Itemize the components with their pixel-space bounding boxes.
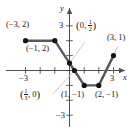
point-label-0-half: (0, 12) bbox=[76, 19, 96, 33]
point-label-neg1-2: (−1, 2) bbox=[26, 44, 49, 53]
y-tick-label-neg3: −3 bbox=[56, 111, 65, 120]
leader-line-half bbox=[70, 42, 86, 63]
fraction-one-third: 13 bbox=[24, 88, 28, 102]
y-tick-label-3: 3 bbox=[59, 21, 63, 30]
x-axis-label: x bbox=[123, 73, 127, 82]
point-label-3-1: (3, 1) bbox=[107, 33, 125, 42]
point-label-neg3-2: (−3, 2) bbox=[6, 20, 29, 29]
point-1-neg1 bbox=[82, 83, 87, 88]
y-axis-label: y bbox=[60, 4, 64, 13]
point-third-0 bbox=[72, 68, 77, 73]
fraction-denominator: 3 bbox=[24, 94, 28, 102]
paren-open: ( bbox=[76, 19, 80, 31]
point-0-half bbox=[67, 61, 72, 66]
point-label-2-neg1: (2, −1) bbox=[95, 90, 118, 99]
x-tick-label-3: 3 bbox=[110, 74, 114, 83]
point-label-1-neg1: (1, −1) bbox=[61, 90, 84, 99]
paren-close: ) bbox=[36, 88, 40, 100]
point-2-neg1 bbox=[96, 83, 101, 88]
point-label-third-0: (13, 0) bbox=[20, 88, 40, 102]
point-neg1-2 bbox=[52, 38, 57, 43]
graph-figure: x y −3 3 3 −3 (−3, 2) (−1, 2) (0, 12) (1… bbox=[0, 0, 133, 131]
point-3-1 bbox=[111, 53, 116, 58]
x-tick-label-neg3: −3 bbox=[19, 74, 28, 83]
paren-close: ) bbox=[92, 19, 96, 31]
y-axis-arrow bbox=[67, 8, 72, 14]
